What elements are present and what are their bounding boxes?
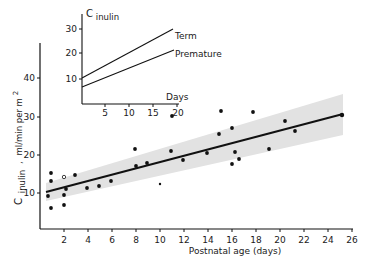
inset-x-tick-20: 20 — [172, 108, 184, 118]
data-point — [73, 173, 77, 177]
data-point — [230, 162, 234, 166]
y-tick-20: 20 — [24, 150, 36, 160]
inset-chart: 30 20 10 5 10 15 20 Days C inulin Term P… — [66, 8, 223, 118]
data-point — [97, 184, 101, 188]
confidence-band — [46, 94, 343, 201]
inset-y-tick-20: 20 — [66, 48, 78, 58]
y-tick-30: 30 — [24, 112, 36, 122]
data-point — [49, 179, 53, 183]
data-point — [340, 113, 344, 117]
x-tick-6: 6 — [109, 235, 115, 245]
x-axis-title: Postnatal age (days) — [189, 246, 281, 256]
data-point — [219, 109, 223, 113]
data-point — [181, 158, 185, 162]
data-point — [145, 161, 149, 165]
y-axis-title: C inulin , ml/min per m 2 — [12, 91, 27, 205]
inset-premature-line — [82, 50, 174, 87]
inset-x-axis-title: Days — [166, 92, 189, 102]
inset-x-tick-10: 10 — [123, 108, 135, 118]
x-tick-8: 8 — [133, 235, 139, 245]
data-point — [217, 132, 221, 136]
data-point — [133, 147, 137, 151]
y-axis-title-units: ml/min per m — [14, 98, 24, 155]
data-point — [85, 186, 89, 190]
data-point — [169, 149, 173, 153]
data-point — [134, 164, 138, 168]
y-axis-title-sup: 2 — [12, 91, 20, 95]
inset-x-tick-5: 5 — [102, 108, 108, 118]
inset-y-tick-30: 30 — [66, 24, 78, 34]
x-tick-14: 14 — [202, 235, 214, 245]
inset-y-tick-10: 10 — [66, 74, 78, 84]
data-point — [293, 129, 297, 133]
inset-y-axis-title-sub: inulin — [96, 12, 119, 22]
inset-term-line — [82, 29, 173, 78]
data-point — [46, 194, 50, 198]
x-tick-2: 2 — [61, 235, 67, 245]
x-tick-16: 16 — [226, 235, 238, 245]
regression-line — [46, 114, 343, 192]
inset-premature-label: Premature — [175, 49, 222, 59]
data-point — [283, 119, 287, 123]
x-tick-24: 24 — [322, 235, 334, 245]
data-point — [230, 126, 234, 130]
x-tick-labels: 2 4 6 8 10 12 14 16 18 20 22 24 26 — [61, 235, 358, 245]
figure-canvas: 10 20 30 40 2 4 6 8 10 12 14 16 18 20 22… — [0, 0, 370, 270]
inset-term-label: Term — [174, 31, 197, 41]
svg-text:C inulin , m: C inulin , ml/min per m 2 — [12, 91, 27, 205]
data-point — [62, 193, 66, 197]
data-point — [64, 187, 68, 191]
inset-y-axis-title-main: C — [86, 8, 93, 19]
inset-y-axis-title: C inulin — [86, 8, 119, 22]
data-point — [49, 171, 53, 175]
x-tick-4: 4 — [85, 235, 91, 245]
data-point — [205, 151, 209, 155]
x-tick-12: 12 — [178, 235, 189, 245]
data-point — [109, 179, 113, 183]
data-point — [62, 203, 66, 207]
x-tick-18: 18 — [250, 235, 262, 245]
x-tick-10: 10 — [154, 235, 166, 245]
data-point — [267, 147, 271, 151]
data-point — [233, 150, 237, 154]
x-tick-26: 26 — [346, 235, 358, 245]
data-point — [251, 110, 255, 114]
data-point-open — [62, 175, 65, 178]
y-axis-title-main: C — [13, 198, 24, 205]
x-tick-22: 22 — [298, 235, 309, 245]
x-tick-20: 20 — [274, 235, 286, 245]
data-point-small — [159, 183, 161, 185]
data-point — [237, 157, 241, 161]
y-tick-40: 40 — [24, 73, 36, 83]
inset-x-tick-15: 15 — [147, 108, 158, 118]
data-point — [49, 206, 53, 210]
y-axis-title-sub: inulin — [17, 170, 27, 193]
